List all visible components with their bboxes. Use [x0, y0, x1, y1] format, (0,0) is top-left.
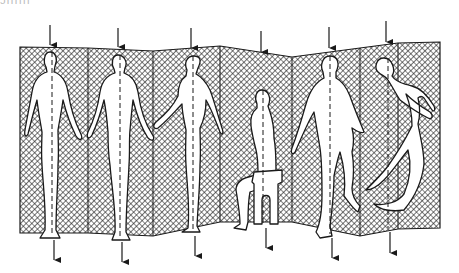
folding-screen-illustration [0, 0, 459, 273]
